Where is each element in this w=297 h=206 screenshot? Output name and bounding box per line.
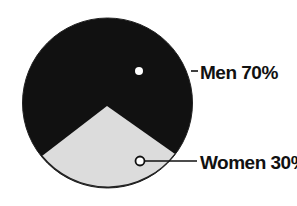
men-label: Men 70% (200, 62, 278, 83)
pie-chart: Men 70% Women 30% (0, 0, 297, 206)
women-label: Women 30% (200, 152, 297, 173)
women-marker (136, 157, 145, 166)
men-marker (135, 67, 143, 75)
